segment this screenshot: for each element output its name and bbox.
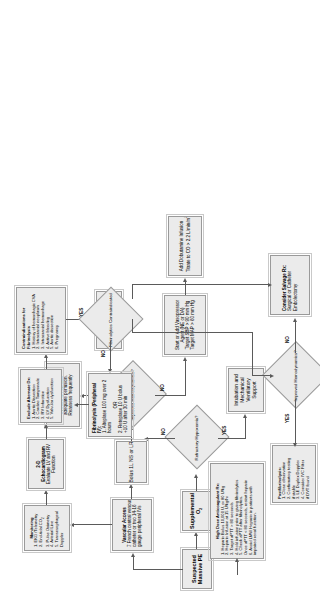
exclude-dx-item-4: 5. Valvular dysfunction bbox=[50, 373, 55, 419]
edge-access-up bbox=[74, 524, 112, 525]
node-supplemental-o2[interactable]: Supplemental O2 bbox=[182, 491, 212, 531]
arrowhead-access-up bbox=[70, 523, 74, 527]
arrowhead-into-improved2 bbox=[270, 374, 274, 378]
arrowhead-o2-to-hypoxemia bbox=[194, 474, 198, 478]
edge-improved2-no bbox=[295, 321, 296, 353]
edge-salvage-feed-v bbox=[132, 284, 270, 285]
arrowhead-improved2-no bbox=[293, 318, 297, 322]
edge-pe-up-h bbox=[133, 556, 134, 570]
node-monitoring[interactable]: Monitoring 1. EKG /Telemetry 2. End-tida… bbox=[24, 505, 70, 551]
edge-monitoring-to-echo bbox=[46, 493, 47, 505]
node-postfibrinolysis[interactable]: Postfibrinolysis: 1. Close observation 2… bbox=[272, 445, 312, 503]
arrowhead-fibrinolysis-up bbox=[74, 403, 78, 407]
arrowhead-improved1-no bbox=[183, 357, 187, 361]
anticoagulant-item-7: impaired renal function. bbox=[253, 467, 258, 555]
edge-o2-to-hypoxemia bbox=[196, 477, 197, 491]
arrowhead-improved2-yes bbox=[293, 443, 297, 447]
fibrinolysis-l4: +10 U after 30 min bbox=[123, 377, 128, 433]
arrowhead-hypoxemia-yes bbox=[243, 414, 247, 418]
edge-hypoxemia-yes-h bbox=[245, 417, 246, 439]
edge-pe-up bbox=[133, 569, 183, 570]
edge-improved1-no-v bbox=[155, 395, 186, 396]
vascular-access-l3: gauge peripheral IVs bbox=[137, 503, 142, 547]
edge-improved2-feed-h bbox=[252, 332, 253, 376]
node-suspected-massive-pe[interactable]: Suspected Massive PE bbox=[182, 549, 212, 589]
arrowhead-to-anticoagulant bbox=[235, 558, 239, 562]
node-contraindications[interactable]: Contraindications for Fibrinolysis 1. Hi… bbox=[16, 287, 66, 353]
edge-salvage-feed-h bbox=[132, 284, 133, 299]
edge-into-improved2 bbox=[252, 375, 272, 376]
edge-exclude-to-contra bbox=[46, 357, 47, 369]
edge-label-contra-yes: YES bbox=[79, 308, 84, 317]
node-vasopressor[interactable]: Start or Add Vasopressor Agent (NE or DA… bbox=[164, 295, 206, 355]
node-fibrinolysis[interactable]: Fibrinolysis (Peripheral IV): 1. Altepla… bbox=[88, 373, 132, 437]
arrowhead-salvage-feed bbox=[268, 283, 272, 287]
postfibrinolysis-item-5: if DVT found bbox=[306, 449, 311, 499]
monitoring-item-5: Doppler bbox=[60, 509, 65, 547]
arrowhead-access-to-bolus bbox=[129, 484, 133, 488]
arrowhead-echo-to-exclude bbox=[44, 424, 48, 428]
edge-to-anticoagulant bbox=[237, 561, 238, 575]
arrowhead-exclude-to-contra bbox=[44, 354, 48, 358]
node-2d-echocardiogram[interactable]: 2-D Echocardiogram Evaluate LV and RV Fu… bbox=[28, 439, 64, 489]
edge-label-hypoxemia-no: NO bbox=[161, 428, 166, 435]
arrowhead-vaso-to-dobut bbox=[183, 278, 187, 282]
edge-fibrinolysis-up bbox=[78, 404, 89, 405]
echo-l2: Function bbox=[51, 443, 56, 485]
fluid-bolus-title: Bolus 1L NS or LR bbox=[129, 441, 135, 482]
node-exclude-alternate-dx[interactable]: Exclude Alternate Dx: 1. Aortic Dissecti… bbox=[20, 369, 62, 423]
node-salvage-rx[interactable]: Consider Salvage Rx: Surgical or Cathete… bbox=[270, 255, 310, 315]
arrowhead-pe-up bbox=[131, 553, 135, 557]
edge-access-to-bolus bbox=[131, 487, 132, 499]
arrowhead-improved1-yes bbox=[80, 394, 84, 398]
arrowhead-monitoring-to-echo bbox=[44, 490, 48, 494]
salvage-l2: Embolectomy bbox=[293, 259, 298, 311]
edge-label-hypoxemia-yes: YES bbox=[222, 426, 227, 435]
edge-hypoxemia-no bbox=[148, 438, 175, 439]
edge-pe-to-o2 bbox=[196, 535, 197, 549]
node-vascular-access[interactable]: Vascular Access 7 French central venous … bbox=[112, 499, 152, 551]
edge-hypoxemia-yes bbox=[218, 438, 246, 439]
fibrinolysis-title: Fibrinolysis (Peripheral IV): bbox=[92, 377, 102, 433]
edge-label-improved2-no: NO bbox=[285, 336, 290, 343]
intubation-l4: Support bbox=[252, 372, 258, 408]
additional-fluid-l4: Reassess frequently bbox=[68, 367, 73, 423]
edge-label-improved1-no: NO bbox=[160, 384, 165, 391]
edge-echo-to-exclude bbox=[46, 427, 47, 439]
contraindications-item-5: 6. Pregnancy bbox=[55, 291, 60, 349]
node-fluid-bolus[interactable]: Bolus 1L NS or LR bbox=[116, 441, 147, 483]
edge-label-contra-no: NO bbox=[101, 350, 106, 357]
node-high-dose-anticoagulant[interactable]: High Dose Anticoagulant Rx: 1. Heparin B… bbox=[210, 463, 264, 559]
vasopressor-l4: Target MAP > 60 mm Hg bbox=[190, 299, 195, 351]
echo-title: 2-D Echocardiogram bbox=[36, 443, 46, 485]
arrowhead-pe-to-o2 bbox=[194, 532, 198, 536]
edge-improved2-yes bbox=[295, 399, 296, 443]
edge-improved2-feed-v bbox=[132, 332, 253, 333]
edge-label-improved2-yes: YES bbox=[285, 414, 290, 423]
diagram-root: Suspected Massive PE Supplemental O2 Ref… bbox=[0, 0, 312, 595]
edge-contra-no bbox=[110, 341, 111, 369]
node-dobutamine[interactable]: Add Dobutamine Infusion Titrate to CO > … bbox=[168, 216, 202, 276]
dobutamine-l2: Titrate to CO > 2.2 L/min/m2 bbox=[184, 220, 191, 272]
supplemental-o2-title: Supplemental O2 bbox=[189, 493, 205, 529]
suspected-pe-line2: Massive PE bbox=[197, 553, 203, 585]
flowchart-canvas: Suspected Massive PE Supplemental O2 Ref… bbox=[0, 0, 312, 595]
edge-improved1-no-h bbox=[185, 360, 186, 396]
edge-improved2-feed-top bbox=[132, 319, 133, 333]
